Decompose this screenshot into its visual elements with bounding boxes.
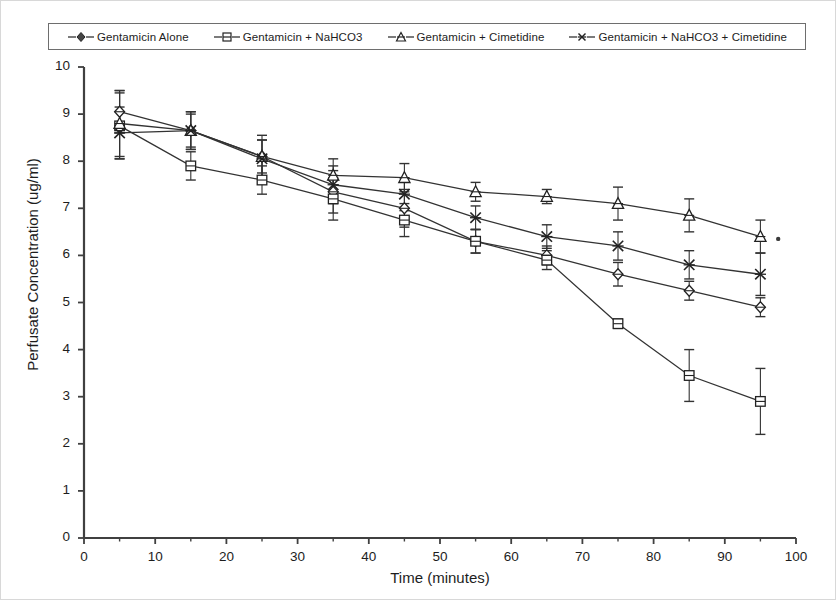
data-series [114,118,766,242]
x-axis-tick-label: 0 [64,549,104,564]
x-axis-tick-label: 70 [562,549,602,564]
y-axis-tick-label: 9 [36,105,70,120]
series-line [120,131,761,275]
x-axis-tick-label: 20 [206,549,246,564]
y-axis-tick-label: 4 [36,341,70,356]
error-bar-group [115,107,766,295]
data-series [115,121,765,406]
x-axis-tick-label: 80 [634,549,674,564]
y-axis-tick-label: 10 [36,58,70,73]
data-series [114,125,766,279]
y-axis-tick-label: 7 [36,199,70,214]
x-axis-tick-label: 90 [705,549,745,564]
y-axis-tick-label: 0 [36,529,70,544]
chart-figure: Gentamicin Alone Gentamicin + NaHCO3 [0,0,836,600]
x-axis-tick-label: 30 [278,549,318,564]
series-line [120,126,761,402]
y-axis-tick-label: 2 [36,435,70,450]
y-axis-tick-label: 5 [36,294,70,309]
data-series [115,106,766,312]
y-axis-tick-label: 8 [36,152,70,167]
x-axis-tick-label: 40 [349,549,389,564]
x-axis-tick-label: 50 [420,549,460,564]
plot-area [1,1,836,600]
error-bar-group [115,93,766,434]
y-axis-title: Perfusate Concentration (ug/ml) [24,100,41,430]
error-bar-group [115,91,766,317]
x-axis-title: Time (minutes) [84,569,796,586]
x-axis-tick-label: 10 [135,549,175,564]
y-axis-tick-label: 1 [36,482,70,497]
error-bar-group [115,91,766,253]
annotation-dot [776,237,780,241]
y-axis-tick-label: 6 [36,246,70,261]
y-axis-tick-label: 3 [36,388,70,403]
x-axis-tick-label: 60 [491,549,531,564]
x-axis-tick-label: 100 [776,549,816,564]
